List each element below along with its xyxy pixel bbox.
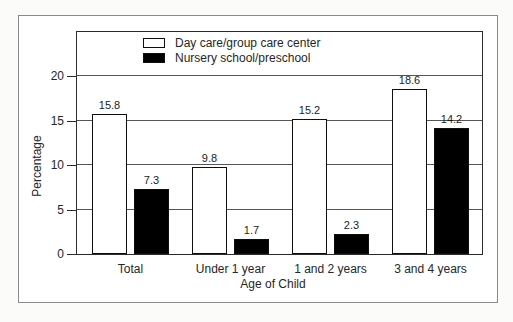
x-category-label: 3 and 4 years — [394, 262, 467, 276]
legend-label-daycare: Day care/group care center — [175, 37, 320, 49]
bar-series0-cat1 — [192, 167, 227, 254]
legend-swatch-daycare — [143, 38, 165, 48]
bar-series1-cat0 — [134, 189, 169, 254]
x-category-label: Total — [118, 262, 143, 276]
x-category-label: Under 1 year — [196, 262, 265, 276]
y-tick-mark — [67, 76, 77, 77]
legend-swatch-nursery — [143, 53, 165, 63]
legend-item-nursery: Nursery school/preschool — [143, 52, 320, 63]
y-tick-label: 0 — [34, 247, 64, 261]
y-tick-mark — [67, 165, 77, 166]
x-category-label: 1 and 2 years — [294, 262, 367, 276]
gridline-20 — [77, 75, 482, 76]
y-tick-label: 20 — [34, 69, 64, 83]
bar-series1-cat1 — [234, 239, 269, 254]
legend-label-nursery: Nursery school/preschool — [175, 52, 310, 64]
y-tick-label: 5 — [34, 203, 64, 217]
bar-value-label: 18.6 — [399, 74, 420, 86]
plot-area: Day care/group care center Nursery schoo… — [76, 31, 483, 255]
bar-value-label: 2.3 — [344, 219, 359, 231]
bar-value-label: 1.7 — [244, 224, 259, 236]
bar-value-label: 15.8 — [99, 99, 120, 111]
y-tick-mark — [67, 254, 77, 255]
bar-series0-cat0 — [92, 114, 127, 254]
y-tick-mark — [67, 210, 77, 211]
legend: Day care/group care center Nursery schoo… — [143, 37, 320, 63]
bar-series0-cat2 — [292, 119, 327, 254]
bar-series1-cat2 — [334, 234, 369, 254]
bar-series1-cat3 — [434, 128, 469, 254]
bar-value-label: 15.2 — [299, 104, 320, 116]
bar-value-label: 9.8 — [202, 152, 217, 164]
y-tick-mark — [67, 121, 77, 122]
bar-series0-cat3 — [392, 89, 427, 254]
x-axis-title: Age of Child — [240, 277, 305, 291]
legend-item-daycare: Day care/group care center — [143, 37, 320, 48]
bar-value-label: 7.3 — [144, 174, 159, 186]
figure-canvas: Percentage Day care/group care center Nu… — [0, 0, 513, 322]
y-tick-label: 10 — [34, 158, 64, 172]
bar-value-label: 14.2 — [441, 113, 462, 125]
y-tick-label: 15 — [34, 114, 64, 128]
